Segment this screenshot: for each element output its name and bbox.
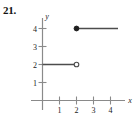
x-axis-label: x	[127, 96, 132, 105]
graph-plot: 1 2 3 4 1 2 3 4 y x	[0, 0, 137, 120]
x-tick-label-2: 2	[75, 106, 79, 115]
closed-point	[74, 26, 79, 31]
figure-21: 21. 1 2 3 4 1 2	[0, 0, 137, 120]
y-tick-label-4: 4	[33, 25, 37, 34]
y-tick-labels: 1 2 3 4	[33, 25, 37, 88]
x-tick-label-1: 1	[58, 106, 62, 115]
y-tick-label-3: 3	[33, 43, 37, 52]
x-tick-labels: 1 2 3 4	[58, 106, 113, 115]
y-tick-label-2: 2	[33, 61, 37, 70]
x-tick-label-4: 4	[109, 106, 113, 115]
y-tick-label-1: 1	[33, 79, 37, 88]
y-axis-label: y	[44, 12, 49, 21]
x-tick-label-3: 3	[92, 106, 96, 115]
open-point	[74, 62, 79, 67]
